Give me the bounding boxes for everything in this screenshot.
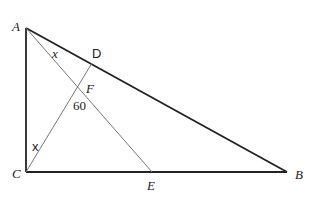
label-A: A <box>11 19 20 34</box>
label-E: E <box>146 178 155 193</box>
geometry-diagram: A D F C E B x x 60 <box>0 0 315 200</box>
angle-label-C: x <box>32 139 39 154</box>
segment-AE <box>26 28 152 172</box>
label-D: D <box>92 46 101 61</box>
label-F: F <box>85 81 95 96</box>
segment-AB <box>26 28 287 172</box>
segment-CD <box>26 63 92 172</box>
label-C: C <box>12 166 21 181</box>
label-B: B <box>295 167 303 182</box>
angle-label-A: x <box>51 46 58 61</box>
angle-label-F: 60 <box>73 98 86 113</box>
